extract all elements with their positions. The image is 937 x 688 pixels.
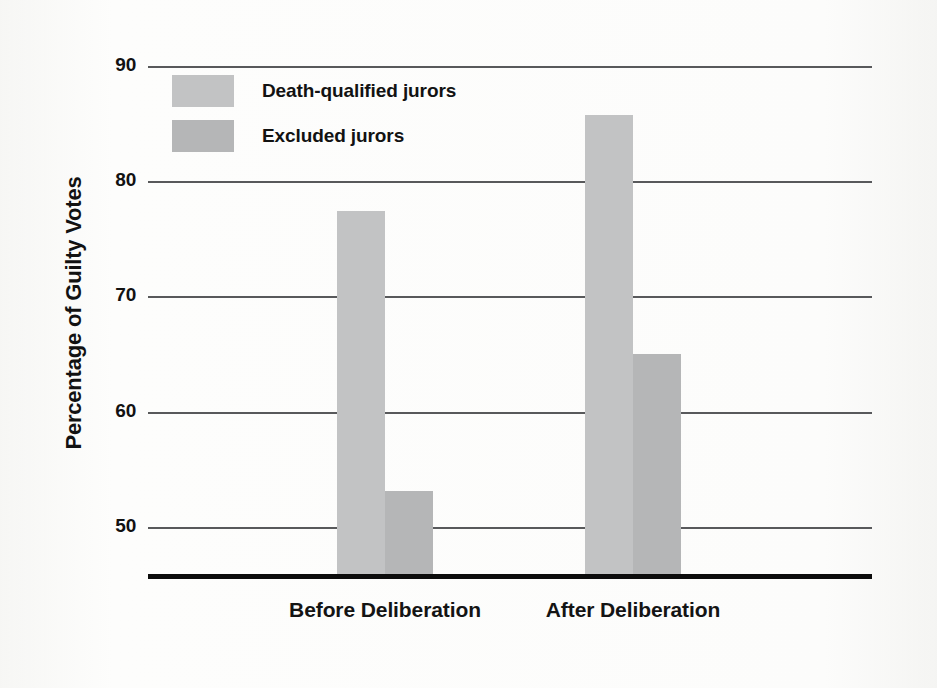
legend-swatch-icon [172,120,234,152]
legend-item-excluded: Excluded jurors [172,117,456,154]
chart-legend: Death-qualified jurorsExcluded jurors [172,72,456,162]
bar-death-qualified-after [585,115,633,574]
legend-item-label: Excluded jurors [262,125,404,147]
bar-excluded-after [633,354,681,574]
bar-death-qualified-before [337,211,385,574]
bars-group [0,0,937,574]
x-axis-baseline [148,574,872,579]
legend-item-label: Death-qualified jurors [262,80,456,102]
bar-excluded-before [385,491,433,574]
legend-item-death-qualified: Death-qualified jurors [172,72,456,109]
bar-chart: Percentage of Guilty Votes 5060708090 Be… [0,0,937,688]
legend-swatch-icon [172,75,234,107]
x-tick-label-after-deliberation: After Deliberation [483,598,783,622]
